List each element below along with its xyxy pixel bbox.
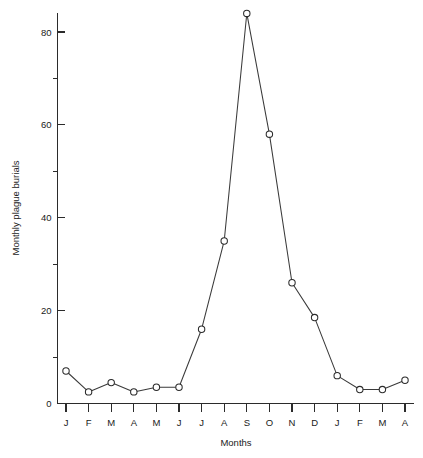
data-point-marker xyxy=(289,280,295,286)
data-point-markers xyxy=(63,10,408,395)
y-axis-tick-labels: 020406080 xyxy=(41,27,52,410)
x-axis-ticks xyxy=(66,404,405,412)
data-point-marker xyxy=(63,368,69,374)
data-point-marker xyxy=(266,131,272,137)
data-point-marker xyxy=(108,379,114,385)
x-axis-tick-labels: JFMAMJJASONDJFMA xyxy=(64,417,409,428)
x-axis-tick-label: J xyxy=(335,417,340,428)
x-axis-tick-label: N xyxy=(289,417,296,428)
data-series-line xyxy=(66,13,405,391)
x-axis-tick-label: F xyxy=(86,417,92,428)
y-axis-tick-label: 60 xyxy=(41,119,52,130)
data-point-marker xyxy=(334,372,340,378)
data-point-marker xyxy=(311,314,317,320)
x-axis-tick-label: S xyxy=(244,417,250,428)
data-point-marker xyxy=(85,389,91,395)
data-point-marker xyxy=(379,386,385,392)
x-axis-tick-label: A xyxy=(402,417,409,428)
data-point-marker xyxy=(131,389,137,395)
x-axis-tick-label: M xyxy=(107,417,115,428)
x-axis-title: Months xyxy=(220,437,251,448)
data-point-marker xyxy=(357,386,363,392)
y-axis-tick-label: 40 xyxy=(41,212,52,223)
data-point-marker xyxy=(244,10,250,16)
data-point-marker xyxy=(221,238,227,244)
data-point-marker xyxy=(198,326,204,332)
x-axis-tick-label: M xyxy=(152,417,160,428)
x-axis-tick-label: F xyxy=(357,417,363,428)
x-axis-tick-label: A xyxy=(221,417,228,428)
chart-axes xyxy=(58,13,415,404)
data-point-marker xyxy=(402,377,408,383)
y-axis-ticks xyxy=(53,0,66,403)
x-axis-tick-label: J xyxy=(64,417,69,428)
y-axis-tick-label: 80 xyxy=(41,27,52,38)
y-axis-tick-label: 20 xyxy=(41,305,52,316)
y-axis-tick-label: 0 xyxy=(46,398,51,409)
chart-container: 020406080 JFMAMJJASONDJFMA Monthly plagu… xyxy=(0,0,423,458)
x-axis-tick-label: M xyxy=(378,417,386,428)
x-axis-tick-label: O xyxy=(266,417,273,428)
x-axis-tick-label: J xyxy=(199,417,204,428)
data-point-marker xyxy=(176,384,182,390)
x-axis-tick-label: D xyxy=(311,417,318,428)
x-axis-tick-label: A xyxy=(131,417,138,428)
x-axis-tick-label: J xyxy=(177,417,182,428)
y-axis-title: Monthly plague burials xyxy=(10,160,21,255)
data-point-marker xyxy=(153,384,159,390)
line-chart-plot: 020406080 JFMAMJJASONDJFMA Monthly plagu… xyxy=(0,0,423,458)
